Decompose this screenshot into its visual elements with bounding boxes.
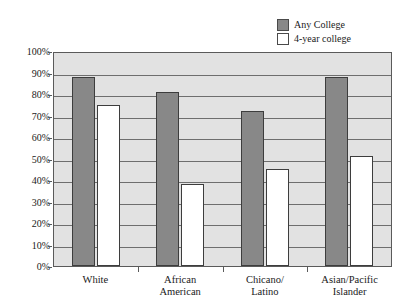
x-axis-tick-mark	[307, 267, 308, 272]
legend-label-four-year-college: 4-year college	[294, 34, 351, 44]
x-axis-category-label-line: Islander	[307, 286, 392, 298]
x-axis-category-label-line: American	[138, 286, 223, 298]
legend-item-any-college: Any College	[277, 18, 387, 31]
x-axis-tick-mark	[138, 267, 139, 272]
y-axis-tick-label: 80%	[2, 90, 50, 100]
bar-any-college	[156, 92, 179, 266]
bar-group	[138, 53, 222, 266]
bar-chart-figure: Any College 4-year college 100%90%80%70%…	[0, 0, 398, 307]
y-axis-tick-label: 30%	[2, 198, 50, 208]
legend-swatch-any-college	[277, 19, 289, 31]
x-axis-category-label-line: Chicano/	[223, 274, 308, 286]
x-axis-category-label-line: White	[53, 274, 138, 286]
y-axis-tick-label: 0%	[2, 262, 50, 272]
y-axis-tick-label: 20%	[2, 219, 50, 229]
y-axis-tick-label: 90%	[2, 69, 50, 79]
bar-group	[307, 53, 391, 266]
x-axis-tick-mark	[223, 267, 224, 272]
bar-any-college	[325, 77, 348, 266]
y-axis-tick-mark	[48, 224, 52, 225]
bar-group	[223, 53, 307, 266]
bar-any-college	[72, 77, 95, 266]
legend-label-any-college: Any College	[294, 20, 345, 30]
y-axis-tick-mark	[48, 203, 52, 204]
x-axis-category-label: White	[53, 274, 138, 298]
bar-four-year-college	[181, 184, 204, 266]
y-axis-tick-mark	[48, 117, 52, 118]
x-axis-category-label: Asian/PacificIslander	[307, 274, 392, 298]
y-axis-tick-mark	[48, 138, 52, 139]
x-axis-labels: WhiteAfricanAmericanChicano/LatinoAsian/…	[53, 274, 392, 298]
bar-four-year-college	[266, 169, 289, 266]
chart-title	[0, 0, 398, 2]
y-axis-tick-mark	[48, 95, 52, 96]
bar-four-year-college	[97, 105, 120, 266]
x-axis-category-label-line: Asian/Pacific	[307, 274, 392, 286]
chart-legend: Any College 4-year college	[277, 18, 387, 46]
y-axis-tick-label: 60%	[2, 133, 50, 143]
y-axis-tick-mark	[48, 160, 52, 161]
y-axis: 100%90%80%70%60%50%40%30%20%10%0%	[0, 52, 50, 267]
legend-item-four-year-college: 4-year college	[277, 32, 387, 45]
bar-groups	[54, 53, 391, 266]
y-axis-tick-mark	[48, 181, 52, 182]
y-axis-tick-label: 100%	[2, 47, 50, 57]
y-axis-tick-label: 50%	[2, 155, 50, 165]
y-axis-tick-mark	[48, 52, 52, 53]
y-axis-tick-mark	[48, 74, 52, 75]
bar-four-year-college	[350, 156, 373, 266]
x-axis-category-label-line: African	[138, 274, 223, 286]
bar-group	[54, 53, 138, 266]
y-axis-tick-mark	[48, 246, 52, 247]
y-axis-tick-mark	[48, 267, 52, 268]
plot-area	[53, 52, 392, 267]
y-axis-tick-label: 10%	[2, 241, 50, 251]
y-axis-tick-label: 40%	[2, 176, 50, 186]
x-axis-category-label-line: Latino	[223, 286, 308, 298]
x-axis-category-label: Chicano/Latino	[223, 274, 308, 298]
x-axis-category-label: AfricanAmerican	[138, 274, 223, 298]
bar-any-college	[241, 111, 264, 266]
y-axis-tick-label: 70%	[2, 112, 50, 122]
legend-swatch-four-year-college	[277, 33, 289, 45]
